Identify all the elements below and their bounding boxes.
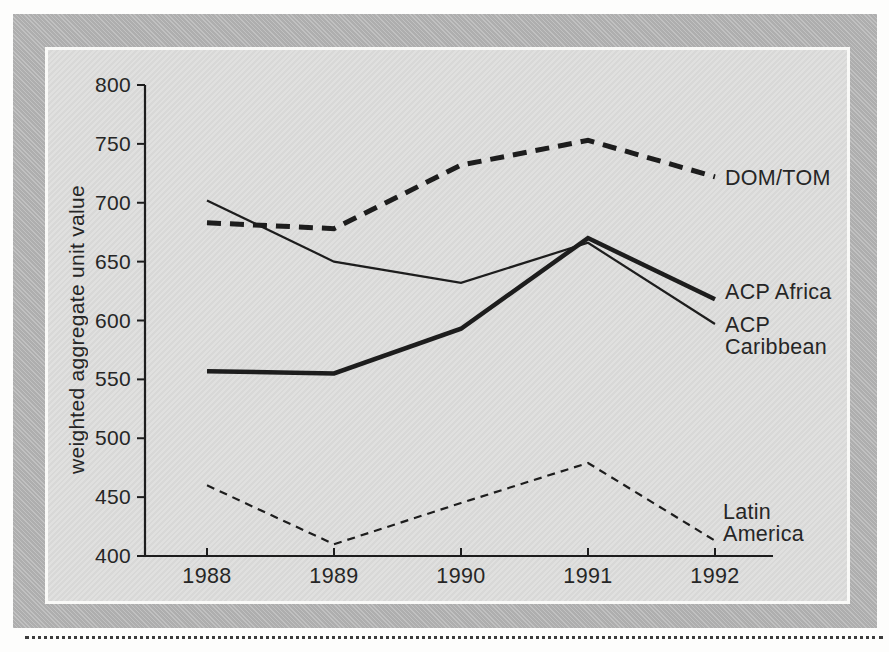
dotted-separator-rule [25, 636, 883, 639]
y-tick-label: 600 [95, 309, 131, 332]
y-tick-label: 650 [95, 250, 131, 273]
axis-spine [145, 85, 773, 556]
y-tick-label: 400 [95, 544, 131, 567]
y-tick-label: 550 [95, 367, 131, 390]
x-tick-label: 1989 [309, 564, 358, 588]
y-tick-label: 500 [95, 426, 131, 449]
y-tick-label: 700 [95, 191, 131, 214]
y-tick-label: 750 [95, 132, 131, 155]
y-axis-title: weighted aggregate unit value [62, 178, 92, 482]
series-label-latin-america: Latin America [723, 501, 804, 545]
x-tick-label: 1992 [690, 564, 739, 588]
series-label-acp-caribbean: ACP Caribbean [725, 314, 827, 358]
series-label-acp-africa: ACP Africa [725, 281, 832, 303]
series-line-acp-africa [207, 238, 715, 373]
series-line-latin-america [207, 463, 715, 544]
y-tick-label: 800 [95, 73, 131, 96]
series-line-dom-tom [207, 140, 715, 228]
y-tick-label: 450 [95, 485, 131, 508]
x-tick-label: 1991 [563, 564, 612, 588]
series-label-dom-tom: DOM/TOM [725, 167, 831, 189]
x-tick-label: 1988 [182, 564, 231, 588]
x-tick-label: 1990 [436, 564, 485, 588]
